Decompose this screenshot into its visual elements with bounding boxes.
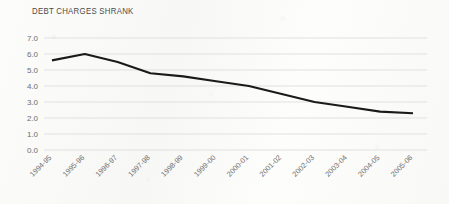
x-axis-tick-label: 2001-02 <box>258 153 284 179</box>
y-axis-tick-labels: 7.06.05.04.03.02.01.00.0 <box>27 34 39 155</box>
x-axis-tick-label: 2000-01 <box>225 153 251 179</box>
series-line-debt-charges <box>52 54 413 113</box>
y-axis-tick-label: 3.0 <box>27 98 39 107</box>
x-axis-tick-label: 1995-96 <box>61 153 87 179</box>
y-axis-tick-label: 2.0 <box>27 114 39 123</box>
y-axis-tick-label: 4.0 <box>27 82 39 91</box>
x-axis-tick-label: 2003-04 <box>323 153 349 179</box>
y-axis-tick-label: 5.0 <box>27 66 39 75</box>
chart-plot-area: 7.06.05.04.03.02.01.00.0 1994-951995-961… <box>0 0 449 204</box>
gridlines-group <box>44 38 427 150</box>
y-axis-tick-label: 0.0 <box>27 146 39 155</box>
chart-figure: DEBT CHARGES SHRANK 7.06.05.04.03.02.01.… <box>0 0 449 204</box>
y-axis-tick-label: 6.0 <box>27 50 39 59</box>
x-axis-tick-label: 1999-00 <box>192 153 218 179</box>
x-axis-tick-label: 1997-98 <box>126 153 152 179</box>
x-axis-tick-label: 2004-05 <box>356 153 382 179</box>
y-axis-tick-label: 7.0 <box>27 34 39 43</box>
x-axis-tick-label: 2005-06 <box>389 153 415 179</box>
y-axis-tick-label: 1.0 <box>27 130 39 139</box>
x-axis-tick-label: 1998-99 <box>159 153 185 179</box>
x-axis-tick-labels: 1994-951995-961996-971997-981998-991999-… <box>28 153 415 179</box>
x-axis-tick-label: 1996-97 <box>94 153 120 179</box>
x-axis-tick-label: 1994-95 <box>28 153 54 179</box>
x-axis-tick-label: 2002-03 <box>290 153 316 179</box>
